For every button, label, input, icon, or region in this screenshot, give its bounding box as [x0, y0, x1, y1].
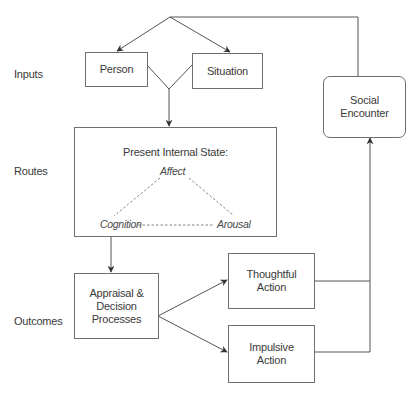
- arousal-node: Arousal: [217, 218, 251, 230]
- social-encounter-label: Social Encounter: [340, 94, 388, 120]
- person-box: Person: [85, 52, 148, 87]
- impulsive-action-box: Impulsive Action: [228, 325, 315, 383]
- row-label-outcomes: Outcomes: [14, 315, 63, 327]
- impulsive-action-label: Impulsive Action: [249, 341, 294, 367]
- thoughtful-action-label: Thoughtful Action: [247, 268, 297, 294]
- appraisal-label: Appraisal & Decision Processes: [89, 287, 143, 326]
- arrow-to-impulsive: [158, 316, 227, 352]
- situation-label: Situation: [207, 65, 248, 78]
- affect-node: Affect: [160, 165, 185, 177]
- row-label-routes: Routes: [14, 165, 48, 177]
- internal-state-title: Present Internal State:: [75, 146, 276, 159]
- person-label: Person: [100, 63, 134, 76]
- arrow-to-person: [117, 17, 170, 51]
- merge-v: [147, 65, 192, 89]
- thoughtful-action-box: Thoughtful Action: [228, 253, 315, 309]
- arrow-to-thoughtful: [158, 280, 227, 316]
- situation-box: Situation: [192, 53, 263, 89]
- social-encounter-box: Social Encounter: [323, 76, 406, 138]
- cognition-node: Cognition: [100, 218, 142, 230]
- row-label-inputs: Inputs: [14, 68, 43, 80]
- diagram-canvas: Inputs Routes Outcomes Person Situation …: [0, 0, 416, 394]
- appraisal-box: Appraisal & Decision Processes: [74, 273, 159, 339]
- arrow-to-situation: [170, 17, 230, 52]
